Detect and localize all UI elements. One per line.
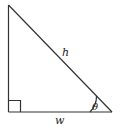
right-angle-marker: [9, 101, 21, 113]
base-label: w: [55, 114, 65, 127]
hypotenuse-label: h: [62, 46, 69, 59]
triangle: [9, 5, 113, 112]
angle-label: θ: [92, 101, 98, 112]
triangle-diagram: h w θ: [0, 0, 122, 128]
hypotenuse: [9, 5, 113, 112]
